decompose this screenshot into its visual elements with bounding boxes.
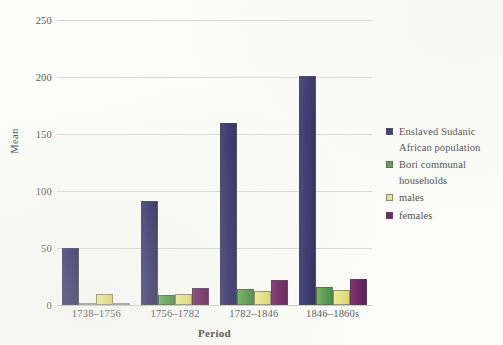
legend-item[interactable]: females xyxy=(386,208,503,224)
y-tick-label-0: 0 xyxy=(47,300,52,311)
legend-label: Enslaved Sudanic African population xyxy=(399,124,503,155)
legend-item[interactable]: males xyxy=(386,190,503,206)
legend: Enslaved Sudanic African populationBori … xyxy=(386,124,503,225)
legend-swatch-icon xyxy=(386,128,393,135)
bar[interactable] xyxy=(333,290,350,305)
bar[interactable] xyxy=(96,294,113,305)
y-tick-label-200: 200 xyxy=(36,72,52,83)
bar[interactable] xyxy=(254,291,271,305)
legend-label: females xyxy=(399,208,432,224)
bar[interactable] xyxy=(220,123,237,305)
x-tick-label: 1756–1782 xyxy=(136,308,215,319)
bar-group-bars xyxy=(215,20,294,305)
bar[interactable] xyxy=(316,287,333,305)
x-tick-label: 1782–1846 xyxy=(215,308,294,319)
bar[interactable] xyxy=(79,303,96,305)
x-axis-title: Period xyxy=(57,327,372,339)
legend-swatch-icon xyxy=(386,161,393,168)
bar-group-bars xyxy=(57,20,136,305)
plot-wrapper: Mean 050100150200250 1738–17561756–17821… xyxy=(0,0,380,345)
y-axis-tick-labels: 050100150200250 xyxy=(12,20,52,305)
x-axis-tick-labels: 1738–17561756–17821782–18461846–1860s xyxy=(57,308,372,319)
bar-group xyxy=(293,20,372,305)
y-tick-label-50: 50 xyxy=(41,243,52,254)
legend-item[interactable]: Bori communal households xyxy=(386,157,503,188)
bar-group-bars xyxy=(293,20,372,305)
bar[interactable] xyxy=(237,289,254,305)
x-tick-label: 1738–1756 xyxy=(57,308,136,319)
bar-group xyxy=(136,20,215,305)
bar[interactable] xyxy=(271,280,288,305)
x-tick-label: 1846–1860s xyxy=(293,308,372,319)
bar[interactable] xyxy=(299,76,316,305)
gridline-0 xyxy=(57,305,372,306)
bar[interactable] xyxy=(141,201,158,305)
bar[interactable] xyxy=(350,279,367,305)
y-tick-label-250: 250 xyxy=(36,15,52,26)
bar-group xyxy=(215,20,294,305)
bar-groups xyxy=(57,20,372,305)
legend-label: males xyxy=(399,190,424,206)
legend-swatch-icon xyxy=(386,212,393,219)
bar[interactable] xyxy=(192,288,209,305)
bar[interactable] xyxy=(62,248,79,305)
bar-group-bars xyxy=(136,20,215,305)
bar[interactable] xyxy=(158,295,175,305)
y-tick-label-150: 150 xyxy=(36,129,52,140)
bar-group xyxy=(57,20,136,305)
bar[interactable] xyxy=(175,294,192,305)
legend-label: Bori communal households xyxy=(399,157,503,188)
bar[interactable] xyxy=(113,303,130,305)
bar-chart-figure: Mean 050100150200250 1738–17561756–17821… xyxy=(0,0,503,345)
legend-item[interactable]: Enslaved Sudanic African population xyxy=(386,124,503,155)
y-tick-label-100: 100 xyxy=(36,186,52,197)
legend-swatch-icon xyxy=(386,194,393,201)
